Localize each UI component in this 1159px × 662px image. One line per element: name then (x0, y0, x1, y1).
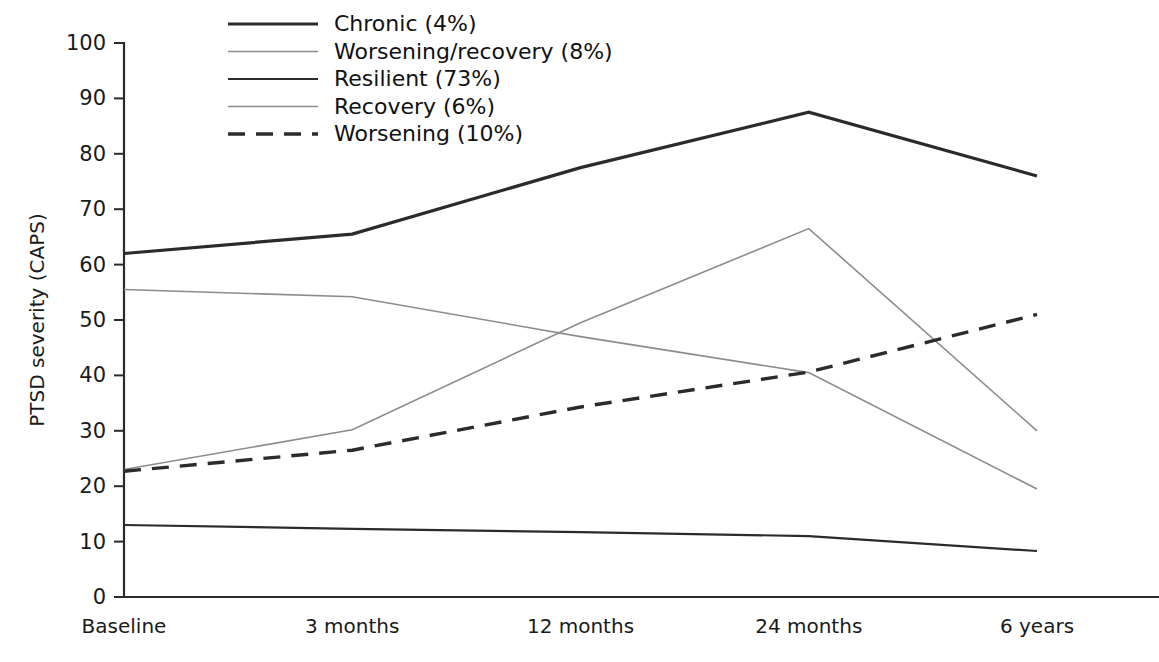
legend-label-3: Recovery (6%) (334, 94, 495, 119)
legend-label-0: Chronic (4%) (334, 11, 477, 36)
legend-label-1: Worsening/recovery (8%) (334, 39, 613, 64)
y-axis-tick-label: 60 (79, 253, 106, 277)
y-axis-tick-label: 40 (79, 363, 106, 387)
series-lines (124, 112, 1037, 551)
y-axis-ticks (114, 43, 124, 597)
x-axis-category-label: 12 months (527, 614, 634, 638)
y-axis-tick-label: 100 (66, 31, 106, 55)
series-line-1 (124, 290, 1037, 489)
x-axis-category-label: Baseline (82, 614, 167, 638)
x-axis-category-label: 6 years (1000, 614, 1074, 638)
y-axis-tick-label: 0 (93, 585, 106, 609)
series-line-2 (124, 525, 1037, 551)
series-line-4 (124, 314, 1037, 471)
y-axis-title: PTSD severity (CAPS) (25, 213, 49, 426)
chart-figure: 0102030405060708090100 PTSD severity (CA… (0, 0, 1159, 662)
ptsd-trajectory-chart: 0102030405060708090100 PTSD severity (CA… (0, 0, 1159, 662)
x-axis-category-label: 3 months (305, 614, 399, 638)
legend-label-4: Worsening (10%) (334, 121, 523, 146)
y-axis-tick-labels: 0102030405060708090100 (66, 31, 106, 609)
chart-legend: Chronic (4%)Worsening/recovery (8%)Resil… (228, 11, 613, 146)
y-axis-tick-label: 90 (79, 86, 106, 110)
y-axis-tick-label: 30 (79, 419, 106, 443)
x-axis-category-labels: Baseline3 months12 months24 months6 year… (82, 614, 1074, 638)
y-axis-tick-label: 10 (79, 530, 106, 554)
y-axis-tick-label: 50 (79, 308, 106, 332)
y-axis-tick-label: 80 (79, 142, 106, 166)
legend-label-2: Resilient (73%) (334, 66, 501, 91)
x-axis-category-label: 24 months (755, 614, 862, 638)
y-axis-tick-label: 20 (79, 474, 106, 498)
y-axis-tick-label: 70 (79, 197, 106, 221)
